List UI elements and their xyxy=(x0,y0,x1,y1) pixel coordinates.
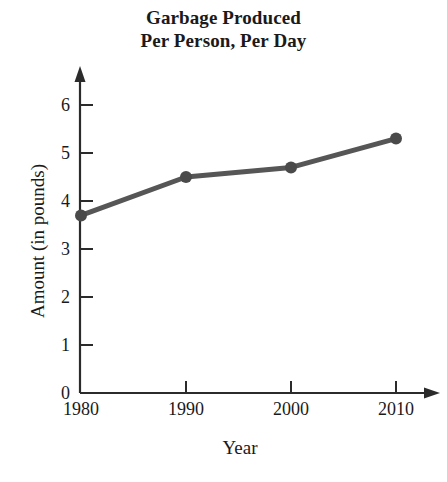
x-tick-label-1990: 1990 xyxy=(151,400,221,418)
x-axis-title: Year xyxy=(80,437,400,459)
y-tick-label-6: 6 xyxy=(44,96,70,114)
x-axis-ticks xyxy=(186,381,396,393)
data-line-series-1 xyxy=(81,139,396,216)
data-point-2010 xyxy=(390,133,402,145)
y-axis-title: Amount (in pounds) xyxy=(27,141,49,341)
data-point-1980 xyxy=(75,209,87,221)
chart-figure: Garbage Produced Per Person, Per Day xyxy=(0,0,447,482)
data-point-markers xyxy=(75,133,402,222)
x-tick-label-1980: 1980 xyxy=(46,400,116,418)
x-axis xyxy=(80,388,440,399)
data-point-1990 xyxy=(180,171,192,183)
data-point-2000 xyxy=(285,161,297,173)
x-tick-label-2010: 2010 xyxy=(361,400,431,418)
y-axis xyxy=(75,66,86,393)
x-tick-label-2000: 2000 xyxy=(256,400,326,418)
y-axis-ticks xyxy=(80,105,93,345)
